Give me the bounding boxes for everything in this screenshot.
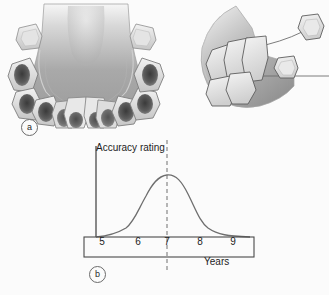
occlusal-arch-illustration: a — [6, 2, 166, 142]
x-tick-6: 6 — [131, 236, 145, 247]
panel-marker-a: a — [21, 119, 38, 136]
erupting-tooth-group — [274, 14, 324, 78]
lateral-arch-svg — [190, 2, 329, 117]
accuracy-chart-panel: Accuracy rating 5 6 7 8 9 Years b — [76, 138, 276, 295]
accuracy-chart-svg — [76, 138, 276, 295]
bell-curve-path — [96, 175, 250, 237]
x-tick-5: 5 — [95, 236, 109, 247]
panel-marker-b: b — [89, 266, 106, 283]
x-tick-9: 9 — [226, 236, 240, 247]
x-tick-8: 8 — [193, 236, 207, 247]
lateral-arch-illustration — [190, 2, 329, 117]
figure-root: a — [0, 0, 329, 295]
y-axis-label: Accuracy rating — [96, 142, 165, 153]
x-tick-7: 7 — [160, 236, 174, 247]
x-axis-label: Years — [204, 256, 229, 267]
